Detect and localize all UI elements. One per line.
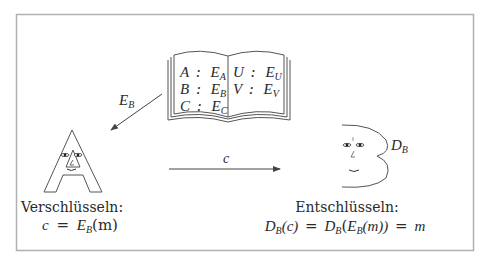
sender-letter-a-icon [44, 130, 102, 192]
arrow-label-c: c [223, 151, 230, 166]
codebook-entry-b: B : EB [180, 80, 226, 99]
codebook-entry-a: A : EA [179, 63, 227, 82]
codebook-icon: A : EA B : EB C : EC U : EU V [168, 51, 290, 122]
receiver-caption: Entschlüsseln: [295, 199, 398, 215]
codebook-right-page: U : EU V : EV [233, 63, 283, 99]
codebook-entry-v: V : EV [233, 80, 281, 99]
receiver-letter-b-icon [342, 125, 388, 187]
arrow-label-eb: EB [118, 92, 134, 110]
sender-caption: Verschlüsseln: [20, 199, 123, 215]
receiver-key-label: DB [390, 137, 408, 155]
receiver-formula: DB(c) = DB(EB(m)) = m [264, 217, 426, 236]
codebook-entry-c: C : EC [180, 97, 228, 116]
codebook-entry-u: U : EU [233, 63, 283, 82]
codebook-left-page: A : EA B : EB C : EC [179, 63, 228, 116]
encryption-diagram: A : EA B : EB C : EC U : EU V [0, 0, 491, 263]
sender-formula: c = EB(m) [42, 216, 118, 235]
diagram-frame [17, 15, 474, 251]
